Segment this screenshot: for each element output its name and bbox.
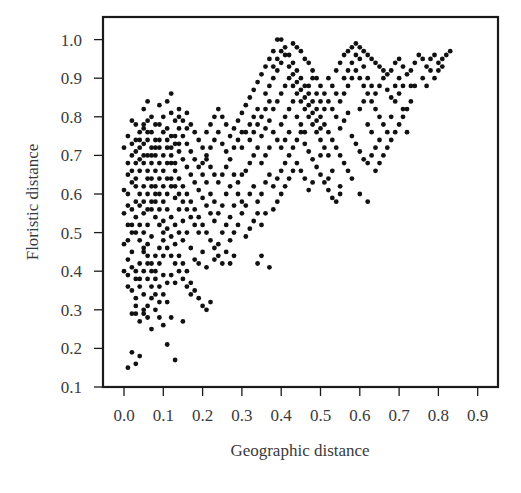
data-point: [133, 122, 138, 127]
data-point: [306, 149, 311, 154]
data-point: [141, 141, 146, 146]
data-point: [322, 180, 327, 185]
data-point: [228, 157, 233, 162]
data-point: [173, 280, 178, 285]
data-point: [259, 114, 264, 119]
data-point: [122, 211, 127, 216]
data-point: [220, 203, 225, 208]
data-point: [153, 307, 158, 312]
data-point: [126, 365, 131, 370]
data-point: [133, 269, 138, 274]
data-point: [161, 230, 166, 235]
data-point: [240, 172, 245, 177]
data-point: [137, 277, 142, 282]
data-point: [192, 130, 197, 135]
data-point: [318, 99, 323, 104]
data-point: [145, 168, 150, 173]
data-point: [173, 196, 178, 201]
data-point: [318, 138, 323, 143]
data-point: [397, 122, 402, 127]
y-axis: 0.10.20.30.40.50.60.70.80.91.0: [61, 31, 103, 397]
data-point: [212, 199, 217, 204]
data-point: [200, 145, 205, 150]
data-point: [192, 157, 197, 162]
data-point: [291, 41, 296, 46]
data-point: [145, 253, 150, 258]
data-point: [228, 184, 233, 189]
data-point: [212, 257, 217, 262]
data-point: [306, 60, 311, 65]
data-point: [141, 199, 146, 204]
data-point: [181, 219, 186, 224]
data-point: [173, 168, 178, 173]
data-point: [224, 165, 229, 170]
data-point: [177, 114, 182, 119]
data-point: [326, 176, 331, 181]
data-point: [161, 153, 166, 158]
data-point: [177, 176, 182, 181]
data-point: [122, 269, 127, 274]
data-point: [192, 207, 197, 212]
data-point: [318, 114, 323, 119]
data-point: [181, 134, 186, 139]
data-point: [409, 84, 414, 89]
data-point: [122, 188, 127, 193]
data-point: [137, 319, 142, 324]
data-point: [236, 223, 241, 228]
y-tick-label: 0.1: [61, 378, 82, 397]
y-tick-label: 0.2: [61, 339, 82, 358]
data-point: [275, 99, 280, 104]
data-point: [165, 280, 170, 285]
data-point: [232, 126, 237, 131]
data-point: [185, 284, 190, 289]
data-point: [133, 311, 138, 316]
y-tick-label: 0.6: [61, 185, 82, 204]
data-point: [369, 130, 374, 135]
data-point: [310, 76, 315, 81]
data-point: [204, 307, 209, 312]
data-point: [247, 122, 252, 127]
data-point: [149, 284, 154, 289]
data-point: [196, 230, 201, 235]
data-point: [212, 219, 217, 224]
data-point: [161, 238, 166, 243]
data-point: [314, 130, 319, 135]
data-point: [295, 45, 300, 50]
x-tick-label: 0.3: [231, 406, 252, 425]
data-point: [381, 68, 386, 73]
data-point: [279, 168, 284, 173]
data-point: [357, 192, 362, 197]
data-point: [279, 60, 284, 65]
data-point: [267, 84, 272, 89]
data-point: [161, 323, 166, 328]
data-point: [389, 68, 394, 73]
data-point: [263, 180, 268, 185]
data-point: [299, 99, 304, 104]
data-point: [318, 126, 323, 131]
data-point: [149, 161, 154, 166]
data-point: [173, 242, 178, 247]
data-point: [149, 114, 154, 119]
data-point: [299, 168, 304, 173]
data-point: [137, 145, 142, 150]
data-point: [130, 153, 135, 158]
data-point: [137, 192, 142, 197]
data-point: [263, 153, 268, 158]
data-point: [240, 199, 245, 204]
data-point: [302, 107, 307, 112]
data-point: [133, 361, 138, 366]
data-point: [381, 153, 386, 158]
data-point: [173, 161, 178, 166]
data-point: [361, 99, 366, 104]
data-point: [271, 207, 276, 212]
data-point: [287, 64, 292, 69]
data-point: [220, 261, 225, 266]
data-point: [153, 184, 158, 189]
data-point: [177, 141, 182, 146]
data-point: [338, 153, 343, 158]
data-point: [149, 327, 154, 332]
data-point: [251, 219, 256, 224]
data-point: [338, 126, 343, 131]
data-point: [279, 192, 284, 197]
data-point: [310, 111, 315, 116]
